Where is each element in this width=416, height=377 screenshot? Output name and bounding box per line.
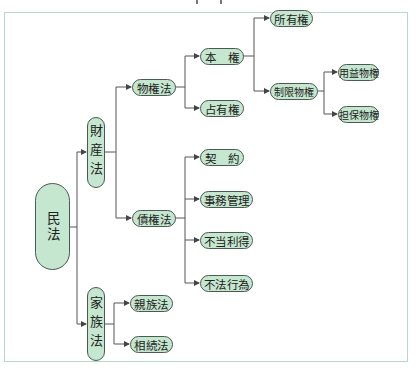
node-label: 家族法	[87, 296, 106, 353]
node-futouritoku: 不当利得	[200, 232, 253, 249]
node-kazokuhou: 家族法	[87, 287, 105, 361]
node-seigenbukken: 制限物権	[270, 83, 318, 100]
node-label: 債権法	[137, 211, 172, 227]
node-shinzokuhou: 親族法	[130, 295, 173, 312]
node-label: 担保物権	[339, 107, 379, 122]
node-souzokuhou: 相続法	[130, 336, 173, 353]
node-label: 占有権	[205, 101, 240, 117]
node-label: 事務管理	[204, 192, 250, 208]
node-shoyuuken: 所有権	[270, 10, 313, 27]
node-label: 相続法	[134, 337, 169, 353]
node-jimukanri: 事務管理	[200, 191, 253, 208]
node-label: 本 権	[205, 49, 240, 65]
node-keiyaku: 契 約	[200, 149, 244, 166]
node-label: 不法行為	[204, 276, 250, 292]
node-label: 財産法	[87, 124, 106, 181]
node-tanpobukken: 担保物権	[338, 106, 379, 123]
node-label: 所有権	[274, 11, 309, 27]
node-label: 契 約	[205, 150, 240, 166]
node-senyuuken: 占有権	[200, 100, 244, 117]
node-youekibukken: 用益物権	[338, 64, 379, 81]
node-label: 物権法	[137, 80, 172, 96]
node-honken: 本 権	[200, 48, 244, 65]
node-label: 民法	[43, 211, 63, 243]
node-saikenhou: 債権法	[132, 210, 176, 227]
node-bukkenhou: 物権法	[132, 79, 176, 96]
node-fuhoukoui: 不法行為	[200, 275, 253, 292]
node-minpou: 民法	[35, 183, 70, 270]
node-label: 制限物権	[274, 84, 314, 99]
node-label: 不当利得	[204, 233, 250, 249]
node-zaisanhou: 財産法	[87, 117, 105, 188]
node-label: 親族法	[134, 296, 169, 312]
node-label: 用益物権	[339, 65, 379, 80]
